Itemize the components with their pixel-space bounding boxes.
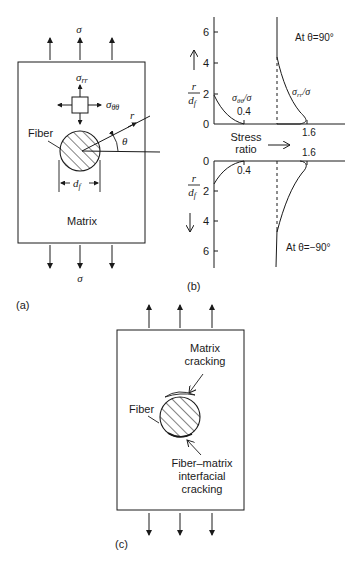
sigma-bottom-label: σ xyxy=(77,272,83,284)
r-vector xyxy=(82,116,150,151)
bottom-load-arrows xyxy=(50,245,112,268)
panel-c-tag: (c) xyxy=(115,538,128,550)
svg-text:6: 6 xyxy=(203,245,209,257)
bottom-tick-labels: 0 2 4 6 xyxy=(203,155,209,257)
theta-arc xyxy=(113,135,118,151)
matrix-cracking-line1: Matrix xyxy=(190,342,220,354)
matrix-label: Matrix xyxy=(67,215,97,227)
top-load-arrows-c xyxy=(149,305,212,328)
matrix-crack-pointer xyxy=(189,374,203,393)
fiber-leader-c xyxy=(148,416,159,423)
top-tick-labels: 6 4 2 0 xyxy=(203,26,209,130)
fiber-leader xyxy=(48,141,61,149)
sigma-top-label: σ xyxy=(76,23,82,35)
df-label: df xyxy=(73,177,83,191)
sigma-rr-label: σrr xyxy=(76,71,89,85)
val-16-bottom: 1.6 xyxy=(302,147,316,158)
val-04-top: 0.4 xyxy=(237,106,251,117)
panel-c: Matrix cracking Fiber Fiber–matrix inter… xyxy=(115,305,244,550)
bottom-y-label-df: df xyxy=(188,186,198,200)
svg-text:2: 2 xyxy=(203,185,209,197)
r-arrow-icon xyxy=(128,123,136,127)
interface-line1: Fiber–matrix xyxy=(171,457,233,469)
val-16-top: 1.6 xyxy=(302,127,316,138)
xlabel-line1: Stress xyxy=(230,131,262,143)
panel-b: 6 4 2 0 At θ=90° σθθ/σ σrr/σ 0.4 1.6 r d… xyxy=(187,17,345,292)
stress-element: σrr σθθ xyxy=(58,71,119,124)
bottom-annotation: At θ=−90° xyxy=(286,242,331,253)
top-y-label-r: r xyxy=(192,80,197,92)
panel-a-tag: (a) xyxy=(16,299,29,311)
bottom-ticks xyxy=(214,161,307,251)
top-y-label-df: df xyxy=(188,94,198,108)
curve-srr-bottom xyxy=(277,161,306,232)
element-square xyxy=(72,97,88,113)
fiber-circle-c xyxy=(160,397,200,437)
theta-label: θ xyxy=(122,135,128,147)
figure-canvas: σ σrr σθθ Fiber r θ xyxy=(0,0,354,563)
top-load-arrows xyxy=(50,38,112,60)
svg-text:2: 2 xyxy=(203,88,209,100)
matrix-crack xyxy=(165,392,195,397)
matrix-cracking-line2: cracking xyxy=(185,355,226,367)
val-04-bottom: 0.4 xyxy=(237,165,251,176)
svg-text:4: 4 xyxy=(203,57,209,69)
svg-text:4: 4 xyxy=(203,215,209,227)
svg-text:6: 6 xyxy=(203,26,209,38)
bottom-load-arrows-c xyxy=(149,513,212,535)
panel-a: σ σrr σθθ Fiber r θ xyxy=(16,23,160,311)
interface-line3: cracking xyxy=(182,483,223,495)
top-ticks xyxy=(214,32,307,124)
bottom-y-label-r: r xyxy=(192,172,197,184)
top-annotation: At θ=90° xyxy=(295,32,334,43)
svg-text:0: 0 xyxy=(203,118,209,130)
interface-line2: interfacial xyxy=(178,470,225,482)
fiber-label-c: Fiber xyxy=(129,403,154,415)
bottom-reference-solid xyxy=(276,230,277,267)
fiber-label: Fiber xyxy=(28,127,53,139)
interface-crack-pointer xyxy=(187,440,201,455)
r-label: r xyxy=(130,109,135,121)
panel-b-tag: (b) xyxy=(187,280,200,292)
srr-label: σrr/σ xyxy=(292,86,311,99)
stt-label: σθθ/σ xyxy=(232,92,253,105)
svg-text:0: 0 xyxy=(203,155,209,167)
xlabel-line2: ratio xyxy=(235,143,256,155)
sigma-tt-label: σθθ xyxy=(106,98,119,112)
